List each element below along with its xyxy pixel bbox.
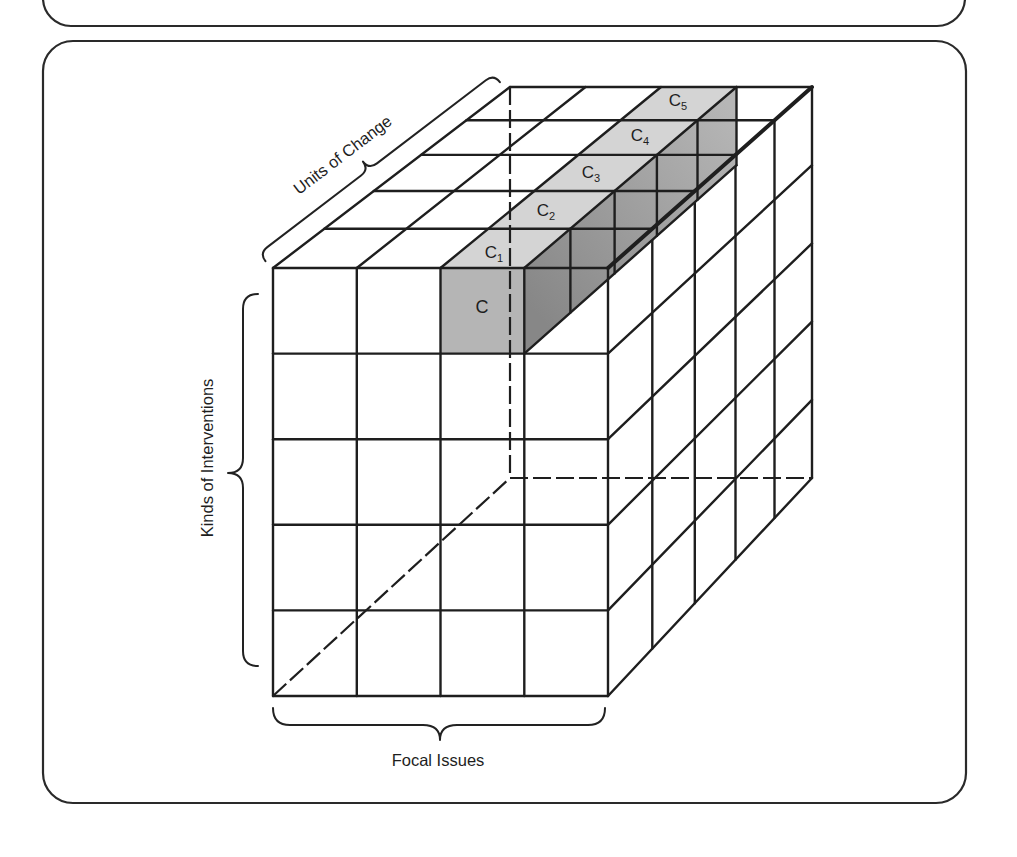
cell-label-subscript: 4 [643,135,649,147]
cell-label-subscript: 2 [549,210,555,222]
cell-label-base: C [669,91,681,110]
cell-label-base: C [582,163,594,182]
cell-label-subscript: 3 [594,172,600,184]
cell-label-base: C [485,243,497,262]
cell-label-c: C [476,297,489,317]
cell-label-c-base: C [476,297,489,317]
cell-label-base: C [631,126,643,145]
kinds-of-interventions-label: Kinds of Interventions [198,379,216,538]
cell-label-subscript: 5 [681,100,687,112]
focal-issues-label: Focal Issues [392,751,485,769]
cell-label-base: C [537,201,549,220]
previous-figure-card [43,0,965,26]
figure-canvas: C C1 C2 C3 C4 C5 Units of Change Kinds o… [0,0,1017,857]
cell-label-subscript: 1 [497,252,503,264]
